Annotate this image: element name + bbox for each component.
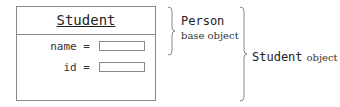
- field-input-id: [99, 62, 145, 72]
- student-class-box: Student: [16, 6, 156, 101]
- base-object-desc: base object: [181, 30, 239, 41]
- class-header: Student: [17, 7, 155, 35]
- field-label-id: id =: [20, 61, 90, 74]
- student-object-name: Student: [252, 50, 303, 64]
- student-object-label: Student object: [252, 47, 338, 65]
- class-title: Student: [17, 12, 155, 28]
- field-input-name: [99, 41, 145, 51]
- student-object-bracket: [238, 5, 252, 103]
- base-object-bracket: [166, 5, 180, 57]
- field-label-name: name =: [20, 40, 90, 53]
- student-object-desc: object: [307, 52, 338, 63]
- base-object-name: Person: [181, 14, 224, 28]
